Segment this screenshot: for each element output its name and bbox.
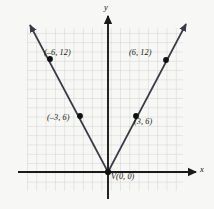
coordinate-plane-svg — [0, 0, 214, 209]
graph-figure: (–6, 12) (6, 12) (–3, 6) (3, 6) V(0, 0) … — [0, 0, 214, 209]
point-label-pos6-12: (6, 12) — [129, 48, 152, 57]
x-axis-label: x — [200, 164, 204, 174]
vertex-label: V(0, 0) — [111, 172, 134, 181]
point-label-neg6-12: (–6, 12) — [44, 48, 71, 57]
point-label-pos3-6: (3, 6) — [134, 117, 152, 126]
point-marker-neg3-6 — [77, 113, 83, 119]
point-marker-pos6-12 — [163, 57, 169, 63]
point-label-neg3-6: (–3, 6) — [47, 113, 70, 122]
y-axis-label: y — [104, 2, 108, 12]
